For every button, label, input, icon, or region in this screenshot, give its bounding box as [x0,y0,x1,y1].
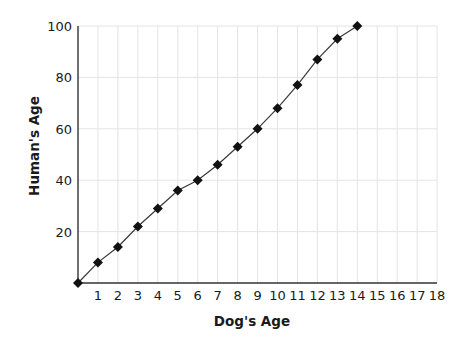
diamond-marker [352,21,362,31]
x-tick-label: 5 [174,288,182,303]
x-tick-labels: 123456789101112131415161718 [94,288,446,303]
line-chart: 20406080100 123456789101112131415161718 … [0,0,471,344]
chart: 20406080100 123456789101112131415161718 … [0,0,471,344]
x-tick-label: 9 [253,288,261,303]
x-tick-label: 6 [194,288,202,303]
y-tick-label: 80 [55,70,72,85]
x-tick-label: 2 [114,288,122,303]
x-tick-label: 16 [389,288,406,303]
y-tick-label: 40 [55,173,72,188]
x-tick-label: 7 [214,288,222,303]
y-tick-label: 60 [55,122,72,137]
x-tick-label: 13 [329,288,346,303]
y-axis-title: Human's Age [26,96,42,196]
x-tick-label: 12 [309,288,326,303]
y-tick-label: 20 [55,225,72,240]
x-tick-label: 10 [269,288,286,303]
gridlines [78,26,437,283]
x-tick-label: 11 [289,288,306,303]
x-tick-label: 17 [409,288,426,303]
x-axis-title: Dog's Age [214,313,290,329]
x-tick-label: 15 [369,288,386,303]
x-tick-label: 4 [154,288,162,303]
diamond-marker [193,175,203,185]
x-tick-label: 3 [134,288,142,303]
y-tick-labels: 20406080100 [47,19,72,240]
x-tick-label: 1 [94,288,102,303]
x-tick-label: 18 [429,288,446,303]
x-tick-label: 8 [233,288,241,303]
y-tick-label: 100 [47,19,72,34]
x-tick-label: 14 [349,288,366,303]
